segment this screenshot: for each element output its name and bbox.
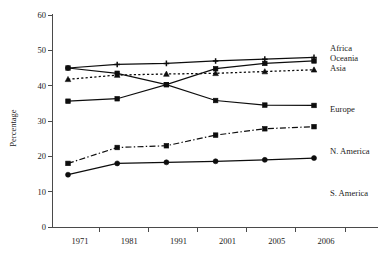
data-point-4-0 [66,161,71,166]
y-tick-label-10: 10 [38,187,47,197]
data-point-5-0 [66,172,71,177]
x-tick-label-2005: 2005 [268,236,285,246]
legend-label-oceania: Oceania [330,53,358,63]
data-point-3-4 [263,103,268,108]
data-point-4-1 [115,145,120,150]
chart-legend: AfricaOceaniaAsiaEuropeN. AmericaS. Amer… [330,43,370,198]
y-axis: 0102030405060 [38,10,53,232]
legend-label-europe: Europe [330,104,355,114]
data-point-0-1 [114,62,120,68]
x-tick-label-2001: 2001 [219,236,236,246]
series-asia [65,67,317,82]
series-line-2 [68,70,314,80]
data-point-0-3 [213,58,219,64]
legend-label-asia: Asia [330,63,346,73]
data-point-3-2 [164,82,169,87]
y-tick-label-20: 20 [38,151,47,161]
y-tick-label-40: 40 [38,81,47,91]
legend-label-n-america: N. America [330,146,370,156]
legend-label-africa: Africa [330,43,352,53]
series-line-5 [68,158,314,175]
data-point-5-5 [312,156,317,161]
x-axis: 197119811991200120052006 [52,227,378,246]
chart-container: 0102030405060 197119811991200120052006 A… [0,0,386,263]
x-tick-label-1971: 1971 [72,236,89,246]
data-point-0-2 [164,61,170,67]
x-tick-label-1991: 1991 [170,236,187,246]
data-point-3-0 [66,99,71,104]
data-point-5-1 [115,161,120,166]
data-point-4-4 [263,126,268,131]
series-line-1 [68,61,314,85]
data-point-3-1 [115,96,120,101]
data-point-5-4 [262,157,267,162]
line-chart: 0102030405060 197119811991200120052006 A… [0,0,386,263]
y-tick-label-50: 50 [38,45,47,55]
series-s-america [66,156,317,178]
data-point-1-0 [66,66,71,71]
data-point-5-2 [164,160,169,165]
data-point-1-4 [263,61,268,66]
data-point-5-3 [213,159,218,164]
data-point-3-5 [312,103,317,108]
y-tick-label-30: 30 [38,116,47,126]
data-point-4-2 [164,143,169,148]
data-point-4-5 [312,124,317,129]
legend-label-s-america: S. America [330,188,368,198]
series-line-3 [68,85,314,106]
x-tick-label-1981: 1981 [121,236,138,246]
series-europe [66,82,317,107]
series-line-4 [68,127,314,164]
data-point-3-3 [213,98,218,103]
series-oceania [66,59,317,87]
y-axis-title: Percentage [8,109,18,147]
data-point-2-5 [311,67,317,72]
y-tick-label-60: 60 [38,10,47,20]
data-point-1-5 [312,59,317,64]
series-layer [65,55,317,178]
y-tick-label-0: 0 [42,222,46,232]
x-tick-label-2006: 2006 [318,236,335,246]
data-point-2-2 [164,71,170,76]
data-point-4-3 [213,133,218,138]
